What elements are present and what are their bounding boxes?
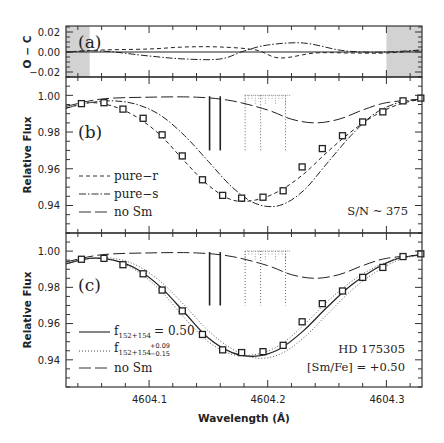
observed-point [159, 287, 165, 293]
c-ytick-2: 0.96 [38, 318, 60, 329]
signal-to-noise-annotation: S/N ~ 375 [347, 204, 408, 218]
line-position-markers [210, 251, 291, 305]
observed-points [78, 95, 423, 201]
observed-point [140, 115, 146, 121]
observed-point [418, 251, 424, 257]
star-name-annotation: HD 175305 [338, 342, 405, 356]
observed-point [319, 301, 325, 307]
legend-no-sm: no Sm [114, 361, 153, 375]
observed-point [239, 350, 245, 356]
observed-point [140, 271, 146, 277]
b-ytick-0: 1.00 [38, 91, 60, 102]
observed-point [101, 100, 107, 106]
legend-f-range-lower: −0.15 [150, 350, 170, 358]
b-ytick-1: 0.98 [38, 127, 60, 138]
observed-point [220, 192, 226, 198]
observed-point [339, 133, 345, 139]
observed-point [239, 195, 245, 201]
observed-point [400, 254, 406, 260]
xtick-4604-1: 4604.1 [132, 394, 167, 405]
legend-no-sm: no Sm [114, 205, 153, 219]
panel-c-legend: f152+154= 0.50 f152+154 +0.09 −0.15 no S… [79, 324, 195, 375]
spectrum-figure: (a) 0.02 0.00 −0.02 O − C (b) 1.00 0.98 … [0, 0, 444, 443]
panel-b-label: (b) [78, 122, 102, 142]
observed-point [360, 274, 366, 280]
panel-b-isotope-fits: (b) 1.00 0.98 0.96 0.94 Relative Flux pu… [21, 77, 424, 233]
observed-point [159, 132, 165, 138]
xtick-4604-3: 4604.3 [370, 394, 405, 405]
observed-point [179, 308, 185, 314]
observed-point [299, 164, 305, 170]
observed-point [199, 177, 205, 183]
observed-point [280, 342, 286, 348]
line-position-markers [210, 95, 291, 150]
observed-point [78, 256, 84, 262]
observed-point [380, 264, 386, 270]
residual-curves [66, 43, 422, 60]
legend-pure-r: pure−r [114, 169, 158, 183]
legend-f-best: f152+154= 0.50 [114, 324, 195, 340]
observed-point [299, 319, 305, 325]
observed-point [360, 119, 366, 125]
panel-c-label: (c) [78, 275, 101, 295]
observed-point [120, 106, 126, 112]
legend-f-range-upper: +0.09 [150, 342, 170, 350]
observed-point [319, 146, 325, 152]
xtick-4604-2: 4604.2 [251, 394, 286, 405]
observed-point [280, 188, 286, 194]
observed-point [179, 153, 185, 159]
panel-a-ylabel: O − C [21, 35, 33, 68]
a-ytick-2: −0.02 [29, 67, 60, 78]
panel-c-fraction-fits: (c) 1.00 0.98 0.96 0.94 Relative Flux f1… [21, 233, 424, 387]
panel-a-label: (a) [78, 32, 101, 52]
panel-b-legend: pure−r pure−s no Sm [79, 169, 158, 219]
c-ytick-0: 1.00 [38, 246, 60, 257]
curve-f152-154-0-09 [66, 255, 422, 356]
a-ytick-1: 0.00 [38, 47, 60, 58]
observed-point [400, 98, 406, 104]
curve-pure-s-residual [66, 43, 422, 60]
panel-c-ylabel: Relative Flux [21, 271, 33, 348]
observed-point [199, 331, 205, 337]
b-ytick-2: 0.96 [38, 164, 60, 175]
observed-point [220, 347, 226, 353]
observed-point [260, 194, 266, 200]
observed-point [339, 288, 345, 294]
observed-point [380, 109, 386, 115]
observed-point [101, 255, 107, 261]
observed-point [120, 262, 126, 268]
observed-point [260, 349, 266, 355]
c-ytick-1: 0.98 [38, 282, 60, 293]
x-axis-title: Wavelength (Å) [198, 412, 290, 424]
panel-a-residuals: (a) 0.02 0.00 −0.02 O − C [21, 26, 422, 78]
a-ytick-0: 0.02 [38, 27, 60, 38]
legend-f-range: f152+154 [114, 341, 152, 357]
legend-pure-s: pure−s [114, 187, 158, 201]
abundance-annotation: [Sm/Fe] = +0.50 [307, 360, 405, 374]
c-ytick-3: 0.94 [38, 355, 60, 366]
observed-point [418, 95, 424, 101]
b-ytick-3: 0.94 [38, 200, 60, 211]
observed-point [78, 101, 84, 107]
panel-b-ylabel: Relative Flux [21, 116, 33, 193]
